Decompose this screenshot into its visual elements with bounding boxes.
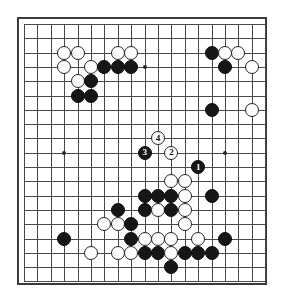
go-board-figure: 4321	[0, 0, 284, 298]
stone-white[interactable]	[124, 246, 138, 260]
move-stone-2[interactable]: 2	[164, 146, 178, 160]
stone-white[interactable]	[164, 232, 178, 246]
stone-layer[interactable]: 4321	[19, 19, 265, 283]
stone-white[interactable]	[84, 246, 98, 260]
stone-white[interactable]	[231, 46, 245, 60]
stone-black[interactable]	[138, 203, 152, 217]
move-stone-3[interactable]: 3	[138, 146, 152, 160]
stone-white[interactable]	[97, 217, 111, 231]
stone-black[interactable]	[138, 189, 152, 203]
stone-black[interactable]	[97, 60, 111, 74]
stone-white[interactable]	[151, 232, 165, 246]
stone-white[interactable]	[164, 246, 178, 260]
stone-black[interactable]	[151, 246, 165, 260]
stone-black[interactable]	[178, 246, 192, 260]
stone-black[interactable]	[218, 60, 232, 74]
move-number-label: 3	[139, 147, 151, 159]
stone-white[interactable]	[178, 189, 192, 203]
stone-white[interactable]	[178, 203, 192, 217]
stone-black[interactable]	[84, 89, 98, 103]
stone-black[interactable]	[71, 89, 85, 103]
stone-white[interactable]	[111, 46, 125, 60]
stone-black[interactable]	[151, 189, 165, 203]
move-number-label: 2	[165, 147, 177, 159]
stone-white[interactable]	[71, 46, 85, 60]
stone-black[interactable]	[124, 232, 138, 246]
stone-black[interactable]	[205, 46, 219, 60]
stone-black[interactable]	[218, 232, 232, 246]
stone-black[interactable]	[191, 246, 205, 260]
stone-white[interactable]	[245, 60, 259, 74]
stone-white[interactable]	[138, 232, 152, 246]
grid-line-vertical	[265, 24, 266, 281]
stone-black[interactable]	[164, 189, 178, 203]
goban[interactable]: 4321	[17, 17, 267, 285]
stone-white[interactable]	[151, 203, 165, 217]
move-stone-4[interactable]: 4	[151, 131, 165, 145]
stone-white[interactable]	[191, 232, 205, 246]
stone-black[interactable]	[205, 189, 219, 203]
move-stone-1[interactable]: 1	[191, 160, 205, 174]
stone-white[interactable]	[111, 246, 125, 260]
stone-black[interactable]	[164, 203, 178, 217]
stone-white[interactable]	[71, 74, 85, 88]
stone-white[interactable]	[218, 46, 232, 60]
stone-white[interactable]	[178, 174, 192, 188]
stone-black[interactable]	[205, 246, 219, 260]
stone-white[interactable]	[245, 103, 259, 117]
stone-black[interactable]	[164, 260, 178, 274]
stone-white[interactable]	[57, 60, 71, 74]
stone-black[interactable]	[111, 203, 125, 217]
stone-white[interactable]	[57, 46, 71, 60]
stone-white[interactable]	[84, 60, 98, 74]
stone-white[interactable]	[111, 217, 125, 231]
move-number-label: 1	[192, 161, 204, 173]
stone-black[interactable]	[124, 217, 138, 231]
stone-black[interactable]	[111, 60, 125, 74]
stone-black[interactable]	[205, 103, 219, 117]
stone-white[interactable]	[178, 217, 192, 231]
stone-black[interactable]	[124, 60, 138, 74]
stone-black[interactable]	[57, 232, 71, 246]
move-number-label: 4	[152, 132, 164, 144]
stone-white[interactable]	[164, 174, 178, 188]
stone-black[interactable]	[138, 246, 152, 260]
stone-black[interactable]	[84, 74, 98, 88]
stone-white[interactable]	[124, 46, 138, 60]
